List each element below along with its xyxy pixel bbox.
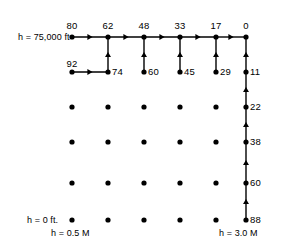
arrow-head	[177, 52, 183, 57]
grid-node[interactable]	[243, 180, 248, 185]
grid-node[interactable]	[105, 34, 110, 39]
grid-node[interactable]	[243, 104, 248, 109]
node-value-label: 0	[237, 21, 255, 31]
altitude-label-top: h = 75,000 ft	[18, 33, 70, 42]
node-value-label: 38	[250, 137, 261, 147]
grid-node[interactable]	[213, 34, 218, 39]
grid-node[interactable]	[177, 104, 182, 109]
node-value-label: 33	[171, 21, 189, 31]
grid-node[interactable]	[213, 69, 218, 74]
grid-node[interactable]	[213, 139, 218, 144]
arrow-head	[243, 87, 249, 92]
network-arc	[141, 37, 147, 72]
network-arc	[180, 34, 216, 40]
node-value-label: 45	[184, 67, 195, 77]
arrow-head	[243, 52, 249, 57]
grid-node[interactable]	[177, 180, 182, 185]
network-arc	[243, 72, 249, 107]
network-arc	[243, 107, 249, 142]
node-value-label: 80	[63, 21, 81, 31]
grid-node[interactable]	[69, 34, 74, 39]
arrow-head	[243, 122, 249, 127]
grid-node[interactable]	[177, 34, 182, 39]
grid-node[interactable]	[69, 69, 74, 74]
network-arc	[108, 34, 144, 40]
arrow-head	[243, 160, 249, 165]
network-arc	[177, 37, 183, 72]
grid-node[interactable]	[141, 34, 146, 39]
grid-node[interactable]	[243, 139, 248, 144]
arrow-head	[213, 52, 219, 57]
grid-node[interactable]	[69, 104, 74, 109]
node-value-label: 22	[250, 102, 261, 112]
node-value-label: 88	[250, 215, 261, 225]
figure-canvas: 8062483317092746045291122386088h = 75,00…	[0, 0, 300, 248]
network-arc	[72, 34, 108, 40]
grid-node[interactable]	[141, 217, 146, 222]
network-arc	[213, 37, 219, 72]
grid-node[interactable]	[105, 139, 110, 144]
grid-node[interactable]	[141, 180, 146, 185]
arrow-head	[105, 52, 111, 57]
arrow-head	[87, 34, 92, 40]
grid-node[interactable]	[141, 69, 146, 74]
grid-node[interactable]	[213, 180, 218, 185]
network-arc	[216, 34, 246, 40]
grid-node[interactable]	[243, 69, 248, 74]
grid-node[interactable]	[213, 217, 218, 222]
grid-node[interactable]	[177, 69, 182, 74]
network-arc	[105, 37, 111, 72]
node-value-label: 11	[250, 67, 260, 77]
grid-node[interactable]	[141, 139, 146, 144]
node-value-label: 17	[207, 21, 225, 31]
node-value-label: 92	[63, 59, 81, 69]
node-value-label: 48	[135, 21, 153, 31]
arrow-head	[123, 34, 128, 40]
grid-node[interactable]	[177, 139, 182, 144]
node-value-label: 60	[148, 67, 159, 77]
network-arc	[243, 183, 249, 220]
network-arc	[144, 34, 180, 40]
arrow-head	[195, 34, 200, 40]
grid-node[interactable]	[243, 34, 248, 39]
node-value-label: 62	[99, 21, 117, 31]
arrow-head	[159, 34, 164, 40]
arrow-head	[228, 34, 233, 40]
grid-node[interactable]	[141, 104, 146, 109]
grid-node[interactable]	[105, 69, 110, 74]
mach-label-left: h = 0.5 M	[51, 229, 90, 238]
network-arc	[243, 142, 249, 183]
arrow-head	[243, 199, 249, 204]
arrow-head	[141, 52, 147, 57]
grid-node[interactable]	[69, 139, 74, 144]
grid-node[interactable]	[105, 104, 110, 109]
grid-node[interactable]	[105, 180, 110, 185]
arrow-head	[87, 69, 92, 75]
grid-node[interactable]	[69, 180, 74, 185]
mach-label-right: h = 3.0 M	[219, 229, 258, 238]
grid-node[interactable]	[69, 217, 74, 222]
grid-node[interactable]	[105, 217, 110, 222]
grid-node[interactable]	[177, 217, 182, 222]
network-arc	[72, 69, 108, 75]
node-value-label: 74	[112, 67, 123, 77]
altitude-label-bottom: h = 0 ft.	[27, 216, 58, 225]
grid-node[interactable]	[213, 104, 218, 109]
network-arc	[243, 37, 249, 72]
node-value-label: 29	[220, 67, 231, 77]
grid-node[interactable]	[243, 217, 248, 222]
node-value-label: 60	[250, 178, 261, 188]
